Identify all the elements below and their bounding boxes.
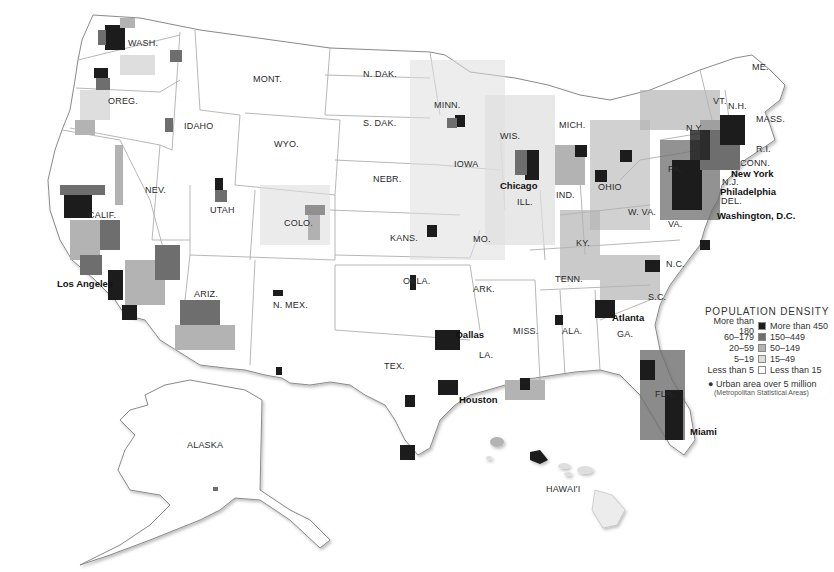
state-label: CONN. bbox=[740, 158, 770, 168]
state-label: S.C. bbox=[648, 292, 666, 302]
state-label: PA. bbox=[668, 164, 682, 174]
bullet-dot-icon: ● bbox=[708, 379, 713, 389]
hawaii bbox=[486, 437, 625, 528]
legend-per-sq-km: 5–19 bbox=[700, 354, 758, 364]
legend-row: 20–59 50–149 bbox=[700, 342, 834, 353]
city-label: New York bbox=[731, 168, 773, 179]
legend-per-sq-mi: More than 450 bbox=[770, 321, 828, 331]
legend-swatch-lightest bbox=[758, 366, 766, 374]
state-label: OKLA. bbox=[403, 276, 431, 286]
state-label: KY. bbox=[576, 238, 590, 248]
state-label: IOWA bbox=[454, 159, 478, 169]
legend-urban-note: ● Urban area over 5 million (Metropolita… bbox=[700, 379, 834, 396]
state-label: MICH. bbox=[559, 120, 586, 130]
state-label: WASH. bbox=[128, 38, 158, 48]
city-label: Miami bbox=[690, 426, 717, 437]
legend-row: Less than 5 Less than 15 bbox=[700, 364, 834, 375]
state-label: S. DAK. bbox=[363, 118, 396, 128]
state-label: MASS. bbox=[756, 114, 785, 124]
legend-per-sq-km: Less than 5 bbox=[700, 365, 758, 375]
legend-per-sq-km: 20–59 bbox=[700, 343, 758, 353]
state-label: CALIF. bbox=[88, 210, 116, 220]
state-label: COLO. bbox=[284, 218, 313, 228]
legend-swatch-dark bbox=[758, 333, 766, 341]
state-label: ALASKA bbox=[187, 440, 223, 450]
city-label: Houston bbox=[459, 394, 498, 405]
state-label: GA. bbox=[617, 329, 633, 339]
state-label: R.I. bbox=[756, 144, 771, 154]
state-label: MISS. bbox=[513, 326, 539, 336]
city-label: Chicago bbox=[500, 180, 537, 191]
city-label: Los Angeles bbox=[57, 278, 113, 289]
state-label: N.H. bbox=[728, 101, 747, 111]
state-label: IND. bbox=[556, 190, 575, 200]
state-label: W. VA. bbox=[628, 207, 656, 217]
state-label: ARIZ. bbox=[194, 289, 218, 299]
state-label: ARK. bbox=[473, 284, 495, 294]
population-density-map bbox=[0, 0, 834, 572]
state-label: FLA. bbox=[655, 389, 675, 399]
state-label: IDAHO bbox=[184, 121, 214, 131]
city-label: Atlanta bbox=[612, 312, 644, 323]
state-label: MONT. bbox=[253, 74, 282, 84]
state-label: NEBR. bbox=[373, 174, 402, 184]
legend-swatch-light bbox=[758, 355, 766, 363]
state-label: DEL. bbox=[721, 196, 742, 206]
legend-row: 5–19 15–49 bbox=[700, 353, 834, 364]
legend-per-sq-mi: Less than 15 bbox=[770, 365, 822, 375]
city-label: Washington, D.C. bbox=[717, 210, 795, 221]
urban-note-text: Urban area over 5 million bbox=[716, 379, 817, 389]
legend-per-sq-km: 60–179 bbox=[700, 332, 758, 342]
legend-per-sq-mi: 150–449 bbox=[770, 332, 805, 342]
state-label: UTAH bbox=[210, 205, 235, 215]
state-label: MINN. bbox=[434, 100, 461, 110]
state-label: NEV. bbox=[145, 185, 166, 195]
legend: POPULATION DENSITY More than 180 More th… bbox=[700, 306, 834, 396]
state-label: LA. bbox=[479, 350, 493, 360]
legend-swatch-darkest bbox=[758, 322, 766, 330]
city-label: Dallas bbox=[456, 329, 484, 340]
state-label: ALA. bbox=[562, 326, 582, 336]
state-label: N. MEX. bbox=[273, 300, 308, 310]
state-label: WIS. bbox=[500, 131, 520, 141]
state-label: TEX. bbox=[384, 361, 405, 371]
legend-row: More than 180 More than 450 bbox=[700, 320, 834, 331]
state-label: KANS. bbox=[390, 233, 418, 243]
legend-per-sq-mi: 15–49 bbox=[770, 354, 795, 364]
state-label: WYO. bbox=[274, 139, 299, 149]
legend-per-sq-mi: 50–149 bbox=[770, 343, 800, 353]
state-label: N.C. bbox=[666, 259, 685, 269]
legend-swatch-medium bbox=[758, 344, 766, 352]
state-label: MO. bbox=[473, 234, 491, 244]
state-label: ME. bbox=[752, 62, 769, 72]
state-label: OREG. bbox=[108, 96, 138, 106]
city-label: Philadelphia bbox=[720, 186, 776, 197]
state-label: VA. bbox=[668, 219, 682, 229]
legend-row: 60–179 150–449 bbox=[700, 331, 834, 342]
state-label: HAWAI'I bbox=[546, 484, 580, 494]
urban-note-subtext: (Metropolitan Statistical Areas) bbox=[708, 389, 834, 396]
state-label: N.Y. bbox=[686, 123, 703, 133]
state-label: TENN. bbox=[555, 274, 583, 284]
state-label: OHIO bbox=[598, 182, 622, 192]
state-label: VT. bbox=[713, 96, 727, 106]
state-label: ILL. bbox=[517, 197, 533, 207]
alaska bbox=[80, 380, 330, 565]
state-label: N. DAK. bbox=[363, 69, 397, 79]
